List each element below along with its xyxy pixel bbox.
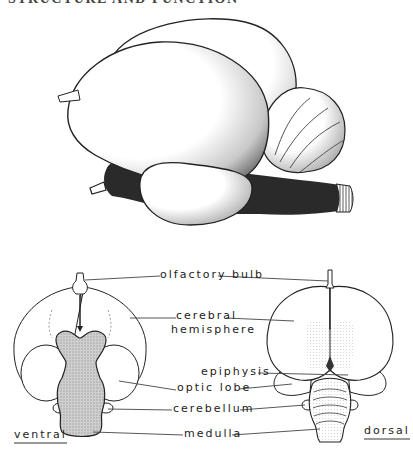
optic-lobe-lateral bbox=[140, 163, 252, 225]
label-epiphysis: epiphysis bbox=[201, 365, 271, 378]
label-hemisphere: hemisphere bbox=[171, 323, 256, 336]
view-label-ventral: ventral bbox=[14, 428, 67, 444]
cut-end-hatch bbox=[336, 184, 353, 212]
ventral-view bbox=[14, 273, 146, 437]
label-cerebral: cerebral bbox=[176, 309, 237, 322]
label-medulla: medulla bbox=[184, 427, 242, 440]
ventral-brainstem bbox=[56, 331, 106, 436]
lateral-brain-view bbox=[58, 19, 353, 225]
label-optic-lobe: optic lobe bbox=[177, 381, 251, 394]
ventral-olfactory-bulb bbox=[73, 273, 88, 294]
view-label-dorsal: dorsal bbox=[364, 424, 410, 440]
label-cerebellum: cerebellum bbox=[173, 402, 254, 415]
dorsal-view bbox=[267, 270, 393, 442]
label-olfactory-bulb: olfactory bulb bbox=[160, 268, 264, 281]
dorsal-cerebellum bbox=[309, 378, 350, 442]
